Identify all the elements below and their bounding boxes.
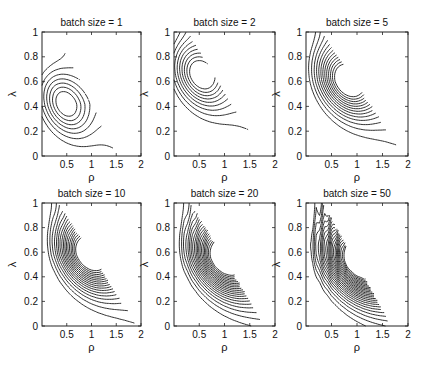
y-tick-label: 0 bbox=[32, 321, 38, 332]
x-tick-label: 1 bbox=[222, 159, 228, 170]
axes-frame bbox=[42, 32, 141, 156]
contour-level-7 bbox=[56, 92, 77, 117]
x-axis-label: ρ bbox=[354, 341, 360, 353]
y-tick-label: 0.6 bbox=[24, 76, 38, 87]
y-tick-label: 0 bbox=[164, 321, 170, 332]
y-tick-label: 0.4 bbox=[24, 101, 38, 112]
y-axis-label: λ bbox=[6, 261, 18, 267]
x-tick-label: 1.5 bbox=[243, 159, 257, 170]
contour-lines bbox=[309, 32, 397, 145]
x-tick-label: 1.5 bbox=[376, 159, 390, 170]
x-tick-label: 2 bbox=[272, 159, 278, 170]
y-tick-label: 0.6 bbox=[288, 76, 302, 87]
y-tick-label: 0.6 bbox=[156, 76, 170, 87]
y-tick-label: 0 bbox=[296, 321, 302, 332]
y-tick-label: 1 bbox=[32, 198, 38, 209]
x-tick-label: 0.5 bbox=[325, 159, 339, 170]
y-axis-label: λ bbox=[138, 91, 150, 97]
panel-title: batch size = 5 bbox=[326, 17, 388, 28]
x-tick-label: 2 bbox=[405, 329, 411, 340]
panel-batch-50: batch size = 500.511.5200.20.40.60.81ρλ bbox=[270, 188, 411, 353]
x-tick-label: 0.5 bbox=[60, 159, 74, 170]
contour-lines bbox=[311, 203, 388, 326]
x-tick-label: 0.5 bbox=[192, 329, 206, 340]
contour-lines bbox=[42, 53, 113, 148]
y-tick-label: 0.6 bbox=[156, 247, 170, 258]
panel-title: batch size = 2 bbox=[194, 17, 256, 28]
x-tick-label: 2 bbox=[272, 329, 278, 340]
y-axis-label: λ bbox=[270, 261, 282, 267]
x-axis-label: ρ bbox=[221, 171, 227, 183]
y-tick-label: 0.8 bbox=[288, 222, 302, 233]
x-tick-label: 1 bbox=[354, 329, 360, 340]
y-tick-label: 0.4 bbox=[288, 101, 302, 112]
axes-frame bbox=[174, 32, 275, 156]
panel-batch-20: batch size = 200.511.5200.20.40.60.81ρλ bbox=[138, 188, 278, 353]
y-tick-label: 0.2 bbox=[24, 296, 38, 307]
contour-lines bbox=[47, 203, 134, 323]
panel-title: batch size = 50 bbox=[323, 188, 391, 199]
y-tick-label: 0.8 bbox=[24, 222, 38, 233]
x-axis-label: ρ bbox=[88, 171, 94, 183]
contour-level-12 bbox=[333, 62, 364, 99]
y-tick-label: 0 bbox=[164, 151, 170, 162]
x-tick-label: 0.5 bbox=[325, 329, 339, 340]
y-tick-label: 0.4 bbox=[288, 271, 302, 282]
panel-batch-5: batch size = 50.511.5200.20.40.60.81ρλ bbox=[270, 17, 411, 183]
contour-lines bbox=[179, 203, 260, 326]
contour-level-1 bbox=[309, 32, 397, 145]
y-tick-label: 1 bbox=[296, 27, 302, 38]
x-tick-label: 1 bbox=[89, 329, 95, 340]
x-tick-label: 2 bbox=[405, 159, 411, 170]
x-tick-label: 1 bbox=[354, 159, 360, 170]
y-tick-label: 1 bbox=[164, 198, 170, 209]
contour-level-3 bbox=[175, 36, 232, 110]
x-tick-label: 1 bbox=[222, 329, 228, 340]
x-tick-label: 1.5 bbox=[243, 329, 257, 340]
contour-level-6 bbox=[58, 216, 114, 293]
y-tick-label: 0.8 bbox=[288, 51, 302, 62]
x-tick-label: 2 bbox=[138, 159, 144, 170]
y-axis-label: λ bbox=[138, 261, 150, 267]
x-tick-label: 0.5 bbox=[192, 159, 206, 170]
panel-title: batch size = 10 bbox=[58, 188, 126, 199]
contour-level-5 bbox=[50, 83, 85, 125]
y-tick-label: 0.2 bbox=[156, 296, 170, 307]
panel-batch-1: batch size = 10.511.5200.20.40.60.81ρλ bbox=[6, 17, 144, 183]
x-tick-label: 1.5 bbox=[109, 159, 123, 170]
y-tick-label: 0.8 bbox=[156, 222, 170, 233]
panel-title: batch size = 20 bbox=[191, 188, 259, 199]
x-axis-label: ρ bbox=[88, 341, 94, 353]
y-tick-label: 0.4 bbox=[156, 271, 170, 282]
x-tick-label: 1.5 bbox=[109, 329, 123, 340]
x-tick-label: 1 bbox=[89, 159, 95, 170]
y-tick-label: 0.8 bbox=[156, 51, 170, 62]
y-tick-label: 1 bbox=[32, 27, 38, 38]
contour-level-2 bbox=[174, 32, 236, 116]
y-axis-label: λ bbox=[270, 91, 282, 97]
panel-batch-10: batch size = 100.511.5200.20.40.60.81ρλ bbox=[6, 188, 144, 353]
x-axis-label: ρ bbox=[221, 341, 227, 353]
contour-level-5 bbox=[180, 45, 226, 102]
x-axis-label: ρ bbox=[354, 171, 360, 183]
y-tick-label: 0.6 bbox=[24, 247, 38, 258]
y-tick-label: 0.2 bbox=[156, 126, 170, 137]
contour-lines bbox=[174, 32, 248, 130]
panel-title: batch size = 1 bbox=[61, 17, 123, 28]
y-tick-label: 0 bbox=[32, 151, 38, 162]
y-axis-label: λ bbox=[6, 91, 18, 97]
contour-level-9 bbox=[190, 61, 215, 89]
x-tick-label: 0.5 bbox=[60, 329, 74, 340]
y-tick-label: 0.4 bbox=[24, 271, 38, 282]
y-tick-label: 0.6 bbox=[288, 247, 302, 258]
y-tick-label: 0.8 bbox=[24, 51, 38, 62]
contour-level-2 bbox=[312, 32, 386, 130]
panel-batch-2: batch size = 20.511.5200.20.40.60.81ρλ bbox=[138, 17, 278, 183]
y-tick-label: 0.2 bbox=[288, 126, 302, 137]
y-tick-label: 0 bbox=[296, 151, 302, 162]
y-tick-label: 0.4 bbox=[156, 101, 170, 112]
y-tick-label: 0.2 bbox=[24, 126, 38, 137]
x-tick-label: 2 bbox=[138, 329, 144, 340]
contour-figure: batch size = 10.511.5200.20.40.60.81ρλba… bbox=[0, 0, 430, 365]
x-tick-label: 1.5 bbox=[376, 329, 390, 340]
